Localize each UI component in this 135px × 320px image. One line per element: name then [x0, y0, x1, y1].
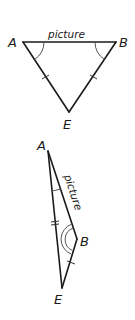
vertex-label-e-bottom: E	[54, 292, 63, 307]
diagram-canvas: A B E picture A B E picture	[0, 0, 135, 320]
tick-ae-bottom-2	[51, 224, 59, 225]
vertex-label-e-top: E	[63, 117, 72, 132]
vertex-label-b-bottom: B	[80, 234, 89, 249]
angle-arc-b-bottom-inner	[65, 228, 73, 251]
tick-ae-bottom-1	[51, 221, 59, 222]
vertex-label-a-top: A	[7, 35, 17, 50]
triangle-top: A B E picture	[7, 28, 128, 132]
angle-arc-b-top	[95, 42, 105, 60]
edge-label-picture-top: picture	[47, 28, 85, 40]
angle-arc-a-top	[35, 42, 45, 60]
tick-be-bottom	[67, 261, 75, 264]
triangle-bottom: A B E picture	[36, 138, 89, 307]
vertex-label-a-bottom: A	[36, 138, 46, 153]
vertex-label-b-top: B	[119, 35, 128, 50]
